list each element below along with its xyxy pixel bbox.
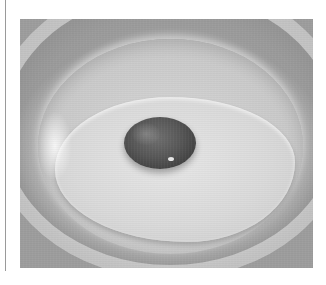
egg-photo: Egg on plate bbox=[20, 19, 313, 268]
left-divider-line bbox=[5, 0, 6, 271]
photo-grain bbox=[20, 19, 313, 268]
